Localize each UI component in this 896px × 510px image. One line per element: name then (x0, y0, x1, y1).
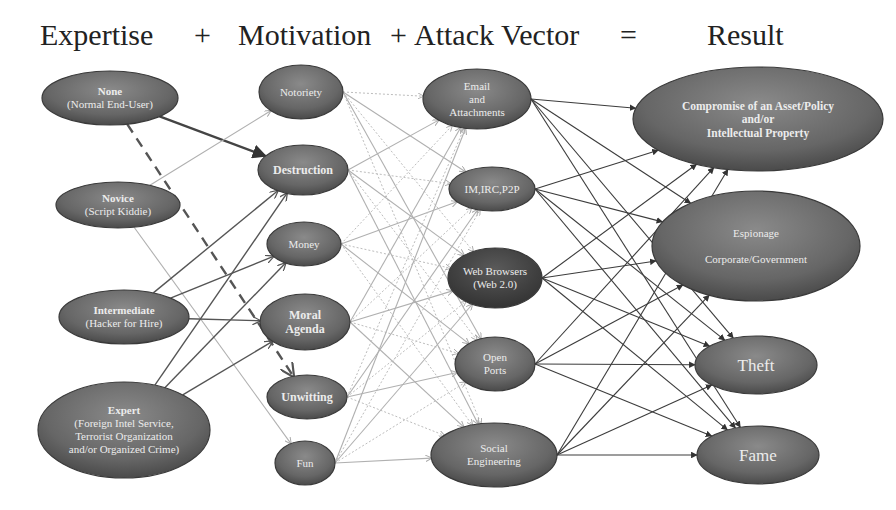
node-label: Theft (738, 356, 775, 375)
node-label: and (469, 93, 485, 105)
node-destruction: Destruction (258, 145, 348, 195)
attack-model-diagram: Expertise + Motivation + Attack Vector =… (0, 0, 896, 510)
edge-web-to-theft (542, 278, 710, 346)
node-moral-agenda: MoralAgenda (260, 294, 350, 350)
node-label: Destruction (273, 163, 333, 177)
node-label: Agenda (285, 322, 324, 336)
edge-unwitting-to-web (347, 301, 466, 397)
edge-ports-to-theft (535, 364, 695, 365)
node-label: Notoriety (280, 86, 323, 98)
node-label: (Foreign Intel Service, (74, 417, 174, 430)
node-ellipse (652, 191, 860, 301)
edge-ports-to-espionage (535, 285, 683, 364)
edge-destruction-to-web (348, 170, 464, 255)
node-unwitting: Unwitting (267, 375, 347, 419)
edge-fun-to-social (335, 458, 431, 463)
edge-expert-to-destruction (155, 193, 287, 385)
edge-money-to-ports (341, 244, 469, 344)
node-label: Novice (102, 192, 134, 204)
node-label: Email (464, 80, 490, 92)
node-theft: Theft (695, 336, 817, 394)
node-label: Espionage (733, 227, 779, 239)
edge-notoriety-to-email (343, 92, 423, 96)
node-expert: Expert(Foreign Intel Service,Terrorist O… (38, 382, 210, 478)
node-label: Web Browsers (463, 265, 527, 277)
edge-none-to-destruction (160, 116, 266, 156)
edge-social-to-theft (557, 385, 712, 455)
node-label: Unwitting (281, 390, 332, 404)
node-label: Corporate/Government (705, 253, 807, 265)
edge-im-to-espionage (535, 189, 663, 222)
node-label: IM,IRC,P2P (464, 183, 519, 195)
node-label: Ports (484, 364, 507, 376)
edge-moral_agenda-to-email (350, 128, 461, 322)
node-label: Moral (289, 308, 322, 322)
node-im: IM,IRC,P2P (449, 167, 535, 211)
edge-novice-to-notoriety (150, 111, 271, 186)
node-novice: Novice(Script Kiddie) (56, 182, 180, 228)
node-label: Compromise of an Asset/Policy (682, 100, 834, 113)
diagram-canvas: None(Normal End-User)Novice(Script Kiddi… (0, 0, 896, 510)
node-label: Expert (108, 404, 141, 416)
node-label: (Hacker for Hire) (86, 317, 163, 330)
node-label: and/or (742, 113, 775, 125)
node-social: SocialEngineering (431, 423, 557, 487)
node-label: Fame (739, 446, 777, 465)
node-label: Engineering (467, 455, 521, 467)
node-label: (Normal End-User) (67, 98, 153, 111)
edge-expert-to-moral_agenda (183, 341, 273, 395)
edge-fun-to-email (335, 128, 466, 463)
node-web: Web Browsers(Web 2.0) (448, 248, 542, 308)
node-money: Money (267, 222, 341, 266)
node-label: None (98, 85, 123, 97)
node-label: (Script Kiddie) (85, 205, 152, 218)
node-notoriety: Notoriety (259, 65, 343, 119)
node-label: Open (483, 351, 507, 363)
edge-email-to-compromise (531, 99, 636, 108)
node-label: (Web 2.0) (473, 278, 517, 291)
node-label: Social (480, 442, 508, 454)
node-email: EmailandAttachments (423, 69, 531, 129)
node-compromise: Compromise of an Asset/Policyand/orIntel… (633, 67, 883, 171)
node-label: Fun (296, 457, 314, 469)
node-label: Money (288, 238, 320, 250)
edges-layer (127, 92, 740, 463)
node-fun: Fun (275, 441, 335, 485)
edge-web-to-espionage (542, 261, 656, 278)
node-ports: OpenPorts (455, 337, 535, 391)
node-fame: Fame (697, 426, 819, 484)
edge-social-to-espionage (557, 295, 709, 455)
node-intermediate: Intermediate(Hacker for Hire) (59, 290, 189, 344)
node-label: Attachments (449, 106, 505, 118)
node-label: Terrorist Organization (75, 430, 173, 442)
node-label: and/or Organized Crime) (69, 443, 180, 456)
node-espionage: EspionageCorporate/Government (652, 191, 860, 301)
node-none: None(Normal End-User) (42, 71, 178, 125)
node-label: Intermediate (93, 304, 154, 316)
node-label: Intellectual Property (707, 127, 810, 140)
